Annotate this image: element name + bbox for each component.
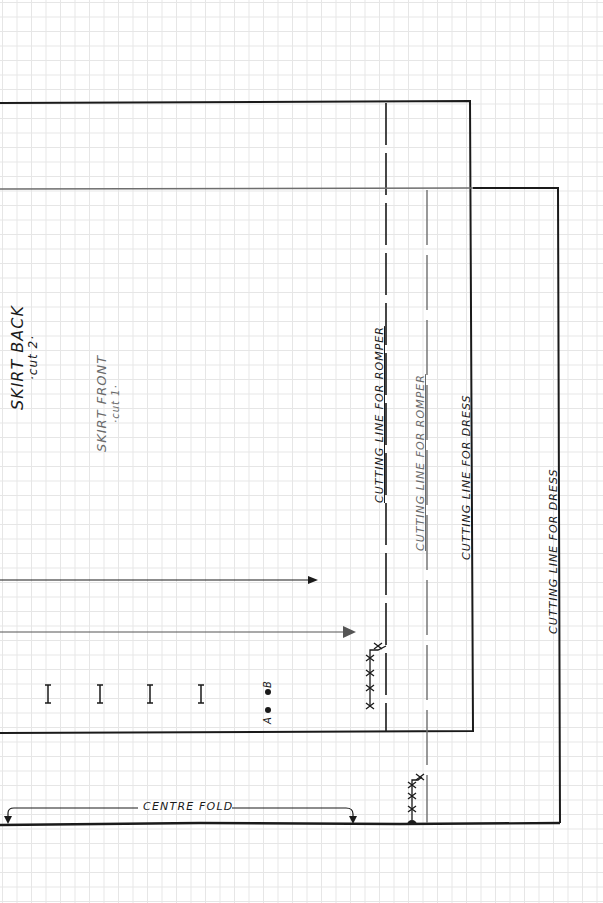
skirt-back-outline [0,101,473,733]
back-dress-cut-label: CUTTING LINE FOR DRESS [460,395,473,560]
skirt-front-cut-note: ·cut 1· [110,384,121,423]
marker-a-dot [265,707,271,713]
marker-a-label: A [262,716,273,724]
pattern-sheet [0,0,603,903]
back-stitch-markers [366,643,386,709]
grain-arrow-back [0,576,318,584]
notches [45,685,204,703]
marker-b-dot [265,689,271,695]
skirt-front-title: SKIRT FRONT [94,355,109,452]
marker-b-label: B [262,680,273,688]
centre-fold-label: CENTRE FOLD [143,800,233,813]
skirt-back-cut-note: ·cut 2· [26,335,40,380]
fold-point-dot [407,820,417,825]
front-stitch-markers [408,774,424,820]
skirt-back-title: SKIRT BACK [8,305,27,410]
front-dress-cut-label: CUTTING LINE FOR DRESS [547,469,560,634]
back-romper-cut-label: CUTTING LINE FOR ROMPER [373,326,386,503]
centre-fold-arrowhead-left [4,816,12,824]
grain-arrow-front [0,626,356,638]
skirt-front-outline [0,188,560,825]
front-romper-cut-label: CUTTING LINE FOR ROMPER [414,374,427,551]
